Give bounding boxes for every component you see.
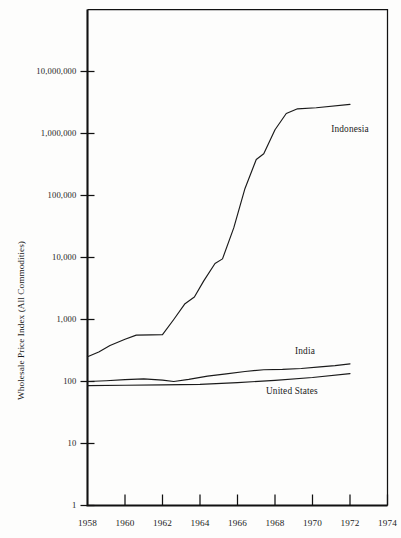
x-tick-label: 1958 (68, 518, 108, 528)
x-tick-label: 1960 (105, 518, 145, 528)
y-tick-label: 10,000,000 (36, 66, 76, 76)
y-tick-label: 100,000 (48, 190, 77, 200)
x-tick-label: 1968 (255, 518, 295, 528)
series-label-india: India (295, 346, 315, 356)
y-axis-title: Wholesale Price Index (All Commodities) (16, 100, 26, 400)
y-tick-label: 10 (68, 438, 77, 448)
x-tick-label: 1964 (180, 518, 220, 528)
y-tick-label: 100 (63, 376, 76, 386)
y-tick-label: 1,000,000 (41, 128, 77, 138)
y-tick-label: 1,000 (56, 314, 76, 324)
wholesale-price-index-chart: Wholesale Price Index (All Commodities) … (0, 0, 401, 538)
series-label-indonesia: Indonesia (331, 124, 369, 134)
x-tick-label: 1970 (293, 518, 333, 528)
x-tick-label: 1974 (368, 518, 401, 528)
x-tick-label: 1972 (330, 518, 370, 528)
chart-background (0, 0, 401, 538)
chart-plot-area (0, 0, 401, 538)
y-tick-label: 1 (72, 500, 76, 510)
y-tick-label: 10,000 (52, 252, 77, 262)
x-tick-label: 1962 (143, 518, 183, 528)
x-tick-label: 1966 (218, 518, 258, 528)
series-label-united-states: United States (266, 386, 318, 396)
